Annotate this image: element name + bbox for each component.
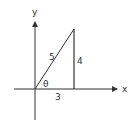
diagram-canvas: y x 5 4 θ 3	[0, 0, 135, 132]
x-axis-label: x	[122, 84, 128, 94]
hypotenuse-label: 5	[49, 52, 55, 62]
angle-label: θ	[43, 79, 49, 89]
y-axis-label: y	[32, 7, 38, 17]
adjacent-label: 3	[55, 92, 61, 102]
opposite-label: 4	[77, 56, 83, 66]
